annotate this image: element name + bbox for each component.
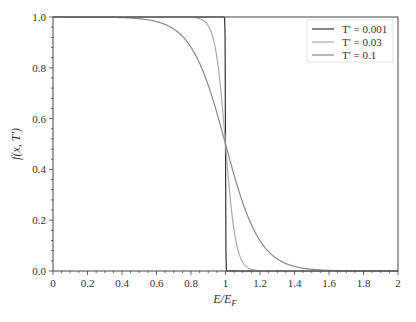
x-tick-label: 0.4 [115,277,129,289]
legend-label-t003: T' = 0.03 [342,36,382,48]
x-axis: 00.20.40.60.811.21.41.61.82 [50,271,401,289]
legend-label-t01: T' = 0.1 [342,49,376,61]
x-tick-label: 0.2 [81,277,95,289]
y-tick-label: 0.8 [32,62,46,74]
legend: T' = 0.001 T' = 0.03 T' = 0.1 [307,20,393,62]
x-tick-label: 0.8 [184,277,198,289]
y-tick-label: 0.4 [32,163,46,175]
y-axis: 0.00.20.40.60.81.0 [32,11,53,277]
y-tick-label: 1.0 [32,11,46,23]
x-tick-label: 0.6 [150,277,164,289]
y-tick-label: 0.6 [32,113,46,125]
x-tick-label: 2 [395,277,401,289]
x-tick-label: 1.4 [288,277,302,289]
legend-label-t0001: T' = 0.001 [342,23,387,35]
x-axis-label: E/EF [212,292,237,308]
y-tick-label: 0.0 [32,265,46,277]
x-tick-label: 1.8 [357,277,371,289]
x-tick-label: 0 [50,277,56,289]
x-tick-label: 1.6 [322,277,336,289]
fermi-dirac-chart: 00.20.40.60.811.21.41.61.82 0.00.20.40.6… [0,0,416,322]
x-tick-label: 1 [223,277,229,289]
y-tick-label: 0.2 [32,214,46,226]
y-axis-label: f(x, T') [9,128,23,160]
x-tick-label: 1.2 [253,277,267,289]
